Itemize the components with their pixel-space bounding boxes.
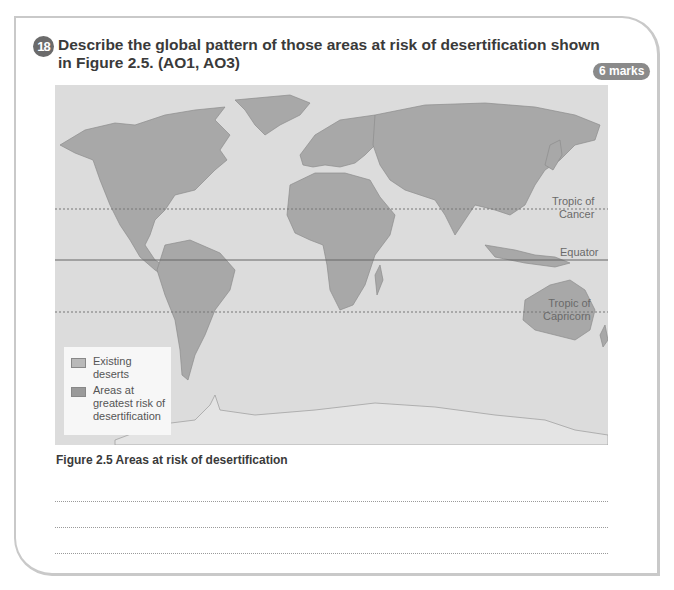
indonesia [485,245,570,267]
figure-caption: Figure 2.5 Areas at risk of desertificat… [56,453,288,467]
question-text: Describe the global pattern of those are… [58,36,600,72]
answer-line-1[interactable] [55,501,608,502]
legend-item-existing-deserts: Existing deserts [71,355,167,381]
marks-badge: 6 marks [593,63,650,80]
tropic-of-cancer-label: Tropic of Cancer [552,195,594,221]
risk-areas-swatch [71,387,86,397]
new-zealand [600,325,608,347]
greenland [235,95,310,135]
tropic-of-capricorn-label: Tropic of Capricorn [543,297,591,323]
answer-line-2[interactable] [55,527,608,528]
antarctica [115,395,608,445]
equator-label: Equator [560,246,599,259]
question-number-badge: 18 [33,36,54,57]
question-text-line2: in Figure 2.5. (AO1, AO3) [58,54,600,72]
world-map-figure: Tropic of Cancer Equator Tropic of Capri… [55,85,608,445]
existing-deserts-swatch [71,358,86,368]
answer-line-3[interactable] [55,553,608,554]
map-legend: Existing deserts Areas at greatest risk … [64,347,171,435]
madagascar [375,265,383,295]
europe [300,115,385,167]
legend-item-risk-areas: Areas at greatest risk of desertificatio… [71,384,167,423]
question-text-line1: Describe the global pattern of those are… [58,36,600,54]
